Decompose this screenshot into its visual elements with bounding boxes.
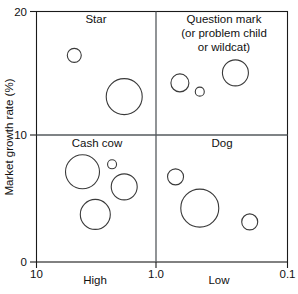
- bubble-star-1: [67, 48, 81, 62]
- x-tick-label-10: 10: [30, 268, 43, 280]
- quadrant-label-star: Star: [85, 13, 106, 25]
- bcg-matrix-chart: 20 10 0 10 1.0 0.1 High Low Market growt…: [0, 0, 298, 294]
- bubble-dog-3: [242, 214, 258, 230]
- bubble-dog-1: [168, 169, 184, 185]
- y-tick-label-0: 0: [21, 256, 27, 268]
- bubble-cash-cow-4: [80, 199, 110, 229]
- quadrant-label-cash-cow: Cash cow: [72, 137, 123, 149]
- bubble-dog-2: [181, 189, 219, 227]
- bubble-star-2: [106, 79, 142, 115]
- x-category-high: High: [83, 274, 107, 286]
- y-tick-label-10: 10: [14, 129, 27, 141]
- y-tick-label-20: 20: [14, 6, 27, 18]
- bubble-cash-cow-2: [108, 160, 117, 169]
- quadrant-label-dog: Dog: [211, 137, 232, 149]
- quadrant-label-question-mark-line2: (or problem child: [181, 27, 267, 39]
- chart-canvas: 20 10 0 10 1.0 0.1 High Low Market growt…: [0, 0, 298, 294]
- bubble-cash-cow-1: [66, 155, 100, 189]
- x-tick-label-01: 0.1: [280, 268, 296, 280]
- bubble-question-mark-2: [195, 87, 204, 96]
- bubble-cash-cow-3: [111, 174, 137, 200]
- bubble-question-mark-1: [171, 74, 189, 92]
- quadrant-label-question-mark-line1: Question mark: [187, 13, 262, 25]
- quadrant-label-question-mark-line3: or wildcat): [198, 41, 251, 53]
- bubble-question-mark-3: [222, 60, 248, 86]
- x-category-low: Low: [208, 274, 230, 286]
- x-tick-label-1: 1.0: [148, 268, 164, 280]
- y-axis-title: Market growth rate (%): [3, 78, 15, 195]
